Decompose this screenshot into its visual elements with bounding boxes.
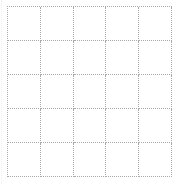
grid-cell-r5-c5: [139, 143, 172, 177]
grid-cell-r4-c1: [8, 109, 41, 143]
grid-cell-r2-c3: [74, 41, 107, 75]
left-edge-guide: [1, 0, 2, 184]
grid-cell-r3-c4: [106, 75, 139, 109]
grid-cell-r5-c4: [106, 143, 139, 177]
grid-cell-r4-c3: [74, 109, 107, 143]
grid-cell-r2-c2: [41, 41, 74, 75]
grid-cell-r1-c2: [41, 7, 74, 41]
dotted-grid: [7, 6, 172, 177]
grid-cell-r1-c3: [74, 7, 107, 41]
grid-cell-r2-c5: [139, 41, 172, 75]
grid-cell-r4-c5: [139, 109, 172, 143]
grid-cell-r3-c1: [8, 75, 41, 109]
grid-cell-r2-c1: [8, 41, 41, 75]
grid-cell-r5-c1: [8, 143, 41, 177]
grid-cell-r3-c2: [41, 75, 74, 109]
grid-cell-r5-c2: [41, 143, 74, 177]
grid-cell-r3-c5: [139, 75, 172, 109]
grid-cell-r2-c4: [106, 41, 139, 75]
grid-cell-r4-c2: [41, 109, 74, 143]
grid-cell-r1-c4: [106, 7, 139, 41]
grid-cell-r4-c4: [106, 109, 139, 143]
grid-cell-r1-c1: [8, 7, 41, 41]
grid-cell-r1-c5: [139, 7, 172, 41]
grid-cell-r5-c3: [74, 143, 107, 177]
grid-cell-r3-c3: [74, 75, 107, 109]
